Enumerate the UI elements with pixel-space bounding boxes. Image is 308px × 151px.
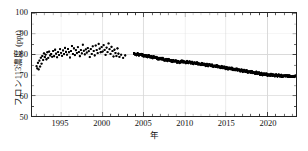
x-axis-title: 年 bbox=[0, 131, 308, 140]
chart-canvas bbox=[32, 13, 296, 116]
figure: フロン113濃度 (ppt) 5060708090100 19952000200… bbox=[0, 0, 308, 151]
x-tick-label: 2010 bbox=[176, 119, 193, 128]
x-tick-label: 2020 bbox=[259, 119, 276, 128]
x-tick-label: 2015 bbox=[218, 119, 235, 128]
plot-area bbox=[31, 12, 297, 117]
x-tick-label: 2000 bbox=[93, 119, 110, 128]
x-tick-label: 1995 bbox=[52, 119, 69, 128]
x-tick-label: 2005 bbox=[135, 119, 152, 128]
